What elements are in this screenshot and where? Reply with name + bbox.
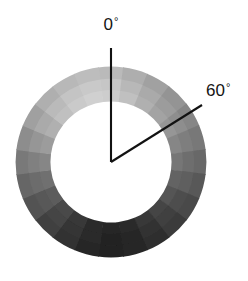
figure-canvas: 0°60° [0,0,248,281]
ring-segment [98,244,124,257]
ring-segment [101,222,121,235]
ring-segment [193,149,206,175]
ring-segment [38,152,51,172]
zero-degree-axis-value: 0 [104,15,113,34]
ring-segment [16,149,29,175]
ring-segment [171,152,184,172]
zero-degree-axis-degree-symbol: ° [114,15,118,27]
sixty-degree-leader-degree-symbol: ° [226,81,230,93]
annulus-diagram: 0°60° [0,0,248,281]
ring-segment [182,151,195,174]
ring-segment [100,233,123,246]
sixty-degree-leader-value: 60 [206,81,225,100]
ring-segment [27,151,40,174]
